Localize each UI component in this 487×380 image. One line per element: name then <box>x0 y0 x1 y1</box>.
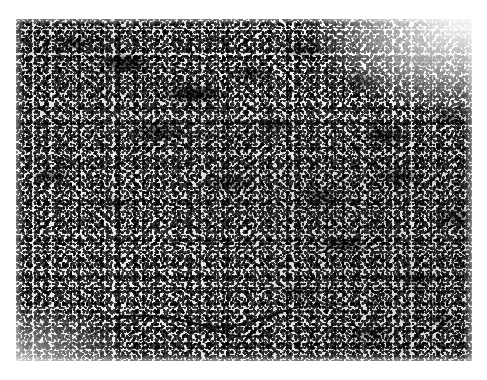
micrograph-plate <box>16 19 472 361</box>
figure-root <box>0 0 487 380</box>
film-grain-layer <box>16 19 472 361</box>
